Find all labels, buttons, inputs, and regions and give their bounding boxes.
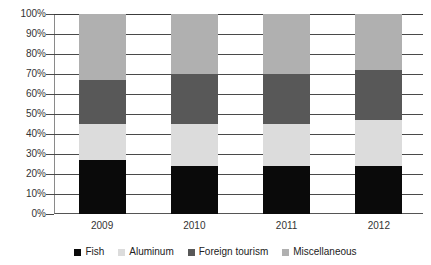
chart-title-clipped [110, 0, 350, 7]
bar-segment-2011-foreign-tourism[interactable] [263, 74, 310, 124]
y-tick-label-100: 100% [0, 9, 46, 19]
y-tick-mark-40 [46, 134, 54, 135]
y-tick-mark-100 [46, 14, 54, 15]
bar-segment-2011-aluminum[interactable] [263, 124, 310, 166]
bar-2012[interactable] [355, 14, 402, 214]
bar-segment-2011-miscellaneous[interactable] [263, 14, 310, 74]
x-axis-labels: 2009201020112012 [54, 219, 423, 235]
y-tick-label-30: 30% [0, 149, 46, 159]
legend-item-aluminum[interactable]: Aluminum [118, 246, 173, 258]
bar-segment-2009-miscellaneous[interactable] [79, 14, 126, 80]
y-tick-mark-10 [46, 194, 54, 195]
legend-item-label: Foreign tourism [199, 246, 268, 258]
x-tick-label-2009: 2009 [67, 219, 137, 232]
y-tick-label-60: 60% [0, 89, 46, 99]
y-tick-label-10: 10% [0, 189, 46, 199]
x-tick-label-2012: 2012 [344, 219, 414, 232]
legend-item-label: Miscellaneous [293, 246, 356, 258]
y-tick-label-20: 20% [0, 169, 46, 179]
y-tick-label-90: 90% [0, 29, 46, 39]
bar-segment-2012-foreign-tourism[interactable] [355, 70, 402, 120]
chart-legend: FishAluminumForeign tourismMiscellaneous [0, 243, 431, 261]
y-tick-label-70: 70% [0, 69, 46, 79]
y-tick-label-0: 0% [0, 209, 46, 219]
plot-area [54, 14, 423, 214]
bar-segment-2011-fish[interactable] [263, 166, 310, 214]
y-tick-mark-30 [46, 154, 54, 155]
y-tick-mark-90 [46, 34, 54, 35]
y-tick-mark-60 [46, 94, 54, 95]
legend-item-fish[interactable]: Fish [74, 246, 104, 258]
legend-item-label: Fish [85, 246, 104, 258]
bar-segment-2010-miscellaneous[interactable] [171, 14, 218, 74]
bar-2011[interactable] [263, 14, 310, 214]
bar-segment-2010-foreign-tourism[interactable] [171, 74, 218, 124]
bar-2009[interactable] [79, 14, 126, 214]
legend-item-foreign-tourism[interactable]: Foreign tourism [188, 246, 268, 258]
y-axis-labels: 0%10%20%30%40%50%60%70%80%90%100% [0, 14, 46, 214]
x-tick-label-2010: 2010 [159, 219, 229, 232]
legend-item-label: Aluminum [129, 246, 173, 258]
legend-swatch-icon [188, 249, 195, 256]
bar-segment-2009-fish[interactable] [79, 160, 126, 214]
y-tick-label-80: 80% [0, 49, 46, 59]
y-tick-mark-70 [46, 74, 54, 75]
bar-segment-2012-fish[interactable] [355, 166, 402, 214]
bar-segment-2009-foreign-tourism[interactable] [79, 80, 126, 124]
bar-segment-2009-aluminum[interactable] [79, 124, 126, 160]
y-tick-mark-80 [46, 54, 54, 55]
y-axis-tick-marks [46, 14, 54, 214]
legend-item-miscellaneous[interactable]: Miscellaneous [282, 246, 356, 258]
bar-segment-2010-fish[interactable] [171, 166, 218, 214]
bar-2010[interactable] [171, 14, 218, 214]
x-tick-label-2011: 2011 [252, 219, 322, 232]
legend-swatch-icon [282, 249, 289, 256]
legend-swatch-icon [74, 249, 81, 256]
bar-segment-2012-aluminum[interactable] [355, 120, 402, 166]
bar-segment-2012-miscellaneous[interactable] [355, 14, 402, 70]
y-tick-mark-50 [46, 114, 54, 115]
bar-segment-2010-aluminum[interactable] [171, 124, 218, 166]
y-tick-mark-20 [46, 174, 54, 175]
y-tick-label-40: 40% [0, 129, 46, 139]
y-tick-mark-0 [46, 214, 54, 215]
stacked-bar-chart: 0%10%20%30%40%50%60%70%80%90%100% 200920… [0, 0, 431, 265]
y-tick-label-50: 50% [0, 109, 46, 119]
legend-swatch-icon [118, 249, 125, 256]
